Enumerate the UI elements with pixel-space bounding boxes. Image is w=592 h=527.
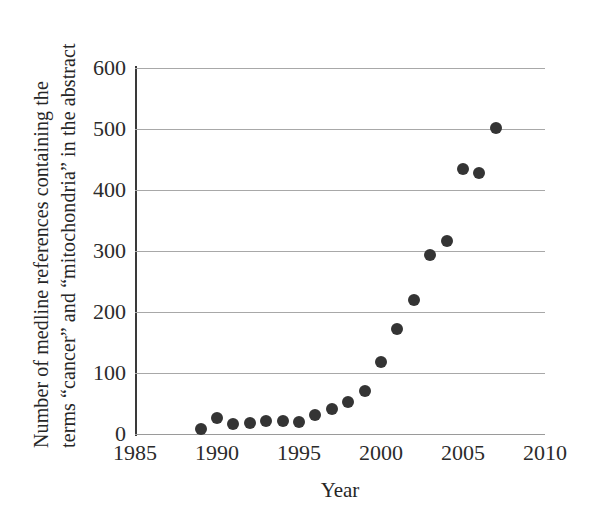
x-axis-title: Year xyxy=(135,478,545,503)
data-point xyxy=(457,163,469,175)
chart-figure: Number of medline references containing … xyxy=(0,0,592,527)
data-point xyxy=(473,167,485,179)
gridline-y-100 xyxy=(135,373,545,374)
y-tick-label-400: 400 xyxy=(56,179,135,201)
x-tick-label-1995: 1995 xyxy=(254,442,344,464)
data-point xyxy=(227,418,239,430)
data-point xyxy=(244,417,256,429)
data-point xyxy=(293,416,305,428)
y-tick-label-300: 300 xyxy=(56,240,135,262)
data-point xyxy=(309,409,321,421)
data-point xyxy=(211,412,223,424)
y-tick-label-500: 500 xyxy=(56,118,135,140)
y-tick-label-200: 200 xyxy=(56,301,135,323)
data-point xyxy=(441,235,453,247)
x-tick-label-1985: 1985 xyxy=(90,442,180,464)
x-tick-label-2010: 2010 xyxy=(500,442,590,464)
data-point xyxy=(408,294,420,306)
data-point xyxy=(424,249,436,261)
x-tick-label-2000: 2000 xyxy=(336,442,426,464)
gridline-y-400 xyxy=(135,190,545,191)
gridline-y-600 xyxy=(135,68,545,69)
data-point xyxy=(391,323,403,335)
y-tick-label-600: 600 xyxy=(56,57,135,79)
x-tick-label-1990: 1990 xyxy=(172,442,262,464)
data-point xyxy=(359,385,371,397)
plot-area: 0100200300400500600198519901995200020052… xyxy=(135,68,545,434)
data-point xyxy=(326,403,338,415)
data-point xyxy=(195,423,207,435)
gridline-y-300 xyxy=(135,251,545,252)
data-point xyxy=(490,122,502,134)
gridline-y-0 xyxy=(135,434,545,435)
data-point xyxy=(260,415,272,427)
y-axis-title-line-1: Number of medline references containing … xyxy=(30,81,53,448)
gridline-y-200 xyxy=(135,312,545,313)
gridline-y-500 xyxy=(135,129,545,130)
y-tick-label-100: 100 xyxy=(56,362,135,384)
data-point xyxy=(342,396,354,408)
data-point xyxy=(277,415,289,427)
data-point xyxy=(375,356,387,368)
x-tick-label-2005: 2005 xyxy=(418,442,508,464)
